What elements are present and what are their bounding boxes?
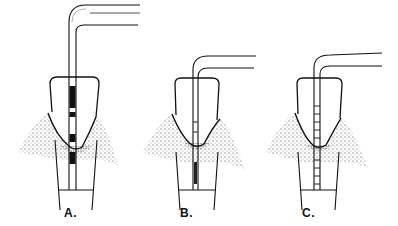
panel-label-b: B. (180, 206, 193, 220)
panel-a (18, 5, 140, 210)
panel-label-c: C. (302, 206, 315, 220)
panel-c (266, 53, 382, 210)
probe-diagram (0, 0, 398, 226)
tooth-crown (175, 78, 219, 120)
probe-c (314, 53, 382, 190)
panel-b (143, 56, 256, 210)
probe-a (69, 5, 140, 190)
probe-b (193, 56, 256, 190)
gingiva (18, 113, 118, 165)
panel-label-a: A. (64, 206, 77, 220)
